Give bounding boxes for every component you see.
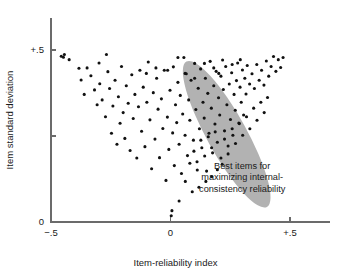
data-point [145,101,148,104]
data-point [252,107,255,110]
data-point [168,89,171,92]
data-point [104,115,107,118]
x-tick-label-0: −.5 [44,227,57,238]
data-point [142,86,145,89]
data-point [245,115,248,118]
data-point [175,121,178,124]
data-point [212,84,215,87]
data-point [111,105,114,108]
data-point [217,96,220,99]
data-point [135,156,138,159]
data-point [223,138,226,141]
y-axis-label: Item standard deviation [4,71,15,170]
data-point [153,138,156,141]
data-point [186,154,189,157]
data-point [246,64,249,67]
data-point [219,156,222,159]
data-point [127,102,130,105]
data-point [171,131,174,134]
data-point [176,81,179,84]
data-point [125,84,128,87]
data-point [267,75,270,78]
data-point [217,72,220,75]
data-point [192,139,195,142]
data-point [108,87,111,90]
data-point [68,58,71,61]
data-point [262,84,265,87]
axis-titles-group: Item-reliability index Item standard dev… [4,71,218,268]
data-point [164,179,167,182]
data-point [282,56,285,59]
data-point [190,79,193,82]
data-point [218,113,221,116]
data-point [221,58,224,61]
data-point [194,108,197,111]
data-point [219,75,222,78]
data-point [255,119,258,122]
best-items-callout: Best items formaximizing internal-consis… [199,161,286,194]
data-point [216,141,219,144]
x-tick-label-1: 0 [168,227,173,238]
data-point [203,62,206,65]
data-point [184,72,187,75]
data-point [238,122,241,125]
data-point [277,58,280,61]
data-point [167,148,170,151]
data-point [228,83,231,86]
data-point [110,132,113,135]
data-point [210,146,213,149]
data-point [77,67,80,70]
data-point [191,190,194,193]
data-point [207,135,210,138]
data-point [176,56,179,59]
data-point [231,63,234,66]
data-point [184,134,187,137]
x-axis-label: Item-reliability index [134,257,218,268]
data-point [214,130,217,133]
data-point [86,66,89,69]
data-point [143,145,146,148]
data-point [210,107,213,110]
data-point [213,122,216,125]
data-point [233,93,236,96]
data-point [98,82,101,85]
data-point [239,86,242,89]
data-point [163,69,166,72]
data-point [63,53,66,56]
data-point [248,127,251,130]
data-point [274,70,277,73]
data-point [263,111,266,114]
data-point [229,118,232,121]
data-point [132,117,135,120]
data-point [199,139,202,142]
data-point [119,122,122,125]
data-point [235,79,238,82]
data-point [179,94,182,97]
data-point [241,68,244,71]
data-point [89,74,92,77]
data-point [250,72,253,75]
x-tick-label-2: +.5 [283,227,296,238]
data-point [212,66,215,69]
data-point [227,152,230,155]
callout-line-0: Best items for [214,161,270,171]
data-point [97,62,100,65]
data-point [181,112,184,115]
data-point [117,95,120,98]
data-point [266,96,269,99]
y-tick-label-0: 0 [39,216,44,227]
data-point [158,156,161,159]
data-point [122,111,125,114]
data-point [236,62,239,65]
data-point [242,113,245,116]
data-point [248,83,251,86]
data-point [166,69,169,72]
data-point [231,127,234,130]
data-point [140,130,143,133]
data-point [258,79,261,82]
data-point [198,127,201,130]
data-point [157,108,160,111]
data-point [80,78,83,81]
data-point [200,146,203,149]
data-point [270,65,273,68]
